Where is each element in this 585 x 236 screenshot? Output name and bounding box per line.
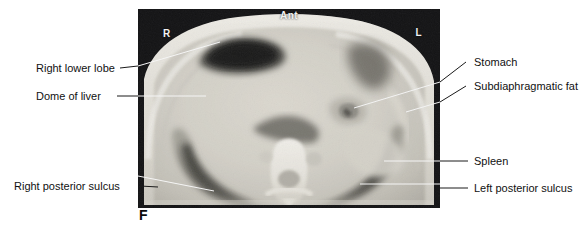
figure-letter: F — [139, 208, 148, 222]
orientation-marker-anterior: Ant — [280, 11, 298, 21]
label-stomach-text: Stomach — [474, 56, 517, 68]
label-right-lower-lobe: Right lower lobe — [36, 62, 115, 74]
orientation-marker-right: R — [163, 29, 171, 39]
label-subdiaphragmatic-fat-text: Subdiaphragmatic fat — [474, 80, 578, 92]
figure-root: R L Ant Right lower lobe Dome of liver R… — [0, 0, 585, 236]
ct-scan-image: R L Ant — [138, 9, 440, 208]
label-spleen: Spleen — [474, 155, 508, 167]
label-right-posterior-sulcus: Right posterior sulcus — [14, 180, 120, 192]
label-stomach: Stomach — [474, 56, 517, 68]
ct-scan-graphic — [138, 9, 440, 208]
label-right-posterior-sulcus-text: Right posterior sulcus — [14, 180, 120, 192]
orientation-marker-left: L — [415, 28, 422, 38]
label-spleen-text: Spleen — [474, 155, 508, 167]
label-dome-of-liver-text: Dome of liver — [36, 90, 101, 102]
leader-subdiaphragmatic-fat — [440, 86, 466, 102]
leader-right-lower-lobe — [120, 66, 138, 68]
label-left-posterior-sulcus-text: Left posterior sulcus — [474, 182, 572, 194]
leader-stomach — [440, 62, 466, 82]
label-left-posterior-sulcus: Left posterior sulcus — [474, 182, 572, 194]
label-right-lower-lobe-text: Right lower lobe — [36, 62, 115, 74]
label-subdiaphragmatic-fat: Subdiaphragmatic fat — [474, 80, 578, 92]
label-dome-of-liver: Dome of liver — [36, 90, 101, 102]
